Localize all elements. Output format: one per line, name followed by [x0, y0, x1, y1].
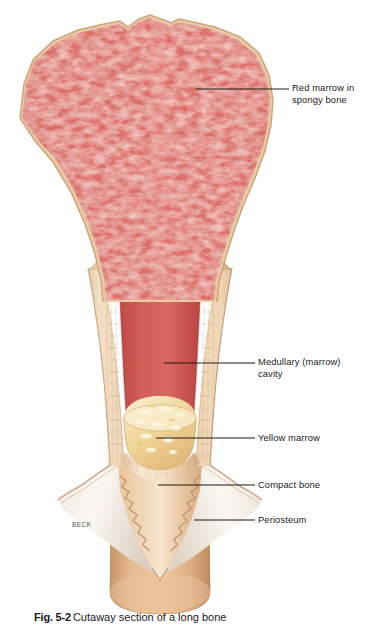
- label-yellow-marrow: Yellow marrow: [258, 432, 320, 444]
- figure-caption-text: Cutaway section of a long bone: [73, 611, 227, 623]
- artist-signature: BECK: [72, 521, 91, 528]
- label-compact-bone: Compact bone: [258, 479, 320, 491]
- figure-caption-number: Fig. 5-2: [34, 611, 71, 623]
- figure-caption: Fig. 5-2Cutaway section of a long bone: [34, 611, 226, 623]
- label-red-marrow-in-spongy-bone: Red marrow in spongy bone: [292, 82, 354, 105]
- yellow-marrow: [124, 396, 196, 470]
- figure-container: Red marrow in spongy bone Medullary (mar…: [0, 0, 378, 626]
- label-periosteum: Periosteum: [258, 514, 306, 526]
- label-medullary-cavity: Medullary (marrow) cavity: [258, 356, 341, 379]
